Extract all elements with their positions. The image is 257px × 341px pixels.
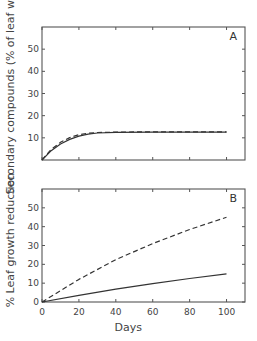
y-tick-label: 50 bbox=[28, 44, 40, 54]
x-tick-label: 60 bbox=[147, 307, 159, 317]
chart-figure: 1020304050ASecondary compounds (% of lea… bbox=[0, 0, 257, 341]
y-tick-label: 40 bbox=[28, 66, 40, 76]
x-axis-label: Days bbox=[115, 321, 143, 334]
panel-b: 01020304050020406080100B% Leaf growth re… bbox=[4, 173, 245, 334]
panel-a: 1020304050ASecondary compounds (% of lea… bbox=[4, 0, 245, 194]
y-tick-label: 10 bbox=[28, 278, 40, 288]
y-tick-label: 50 bbox=[28, 203, 40, 213]
y-tick-label: 0 bbox=[33, 297, 39, 307]
y-tick-label: 10 bbox=[28, 133, 40, 143]
panel-label: B bbox=[229, 192, 237, 205]
y-tick-label: 30 bbox=[28, 241, 40, 251]
y-tick-label: 30 bbox=[28, 89, 40, 99]
x-tick-label: 0 bbox=[39, 307, 45, 317]
y-axis-label: % Leaf growth reduction bbox=[4, 173, 17, 308]
series-solid bbox=[42, 132, 227, 160]
series-solid bbox=[42, 274, 227, 302]
x-tick-label: 40 bbox=[110, 307, 122, 317]
x-tick-label: 100 bbox=[218, 307, 235, 317]
plot-frame bbox=[42, 27, 245, 160]
series-dashed bbox=[42, 217, 227, 302]
y-tick-label: 40 bbox=[28, 222, 40, 232]
y-axis-label: Secondary compounds (% of leaf wt) bbox=[4, 0, 17, 194]
x-tick-label: 20 bbox=[73, 307, 85, 317]
panel-label: A bbox=[229, 30, 237, 43]
y-tick-label: 20 bbox=[28, 259, 40, 269]
series-dashed bbox=[42, 132, 227, 160]
y-tick-label: 20 bbox=[28, 111, 40, 121]
x-tick-label: 80 bbox=[184, 307, 196, 317]
